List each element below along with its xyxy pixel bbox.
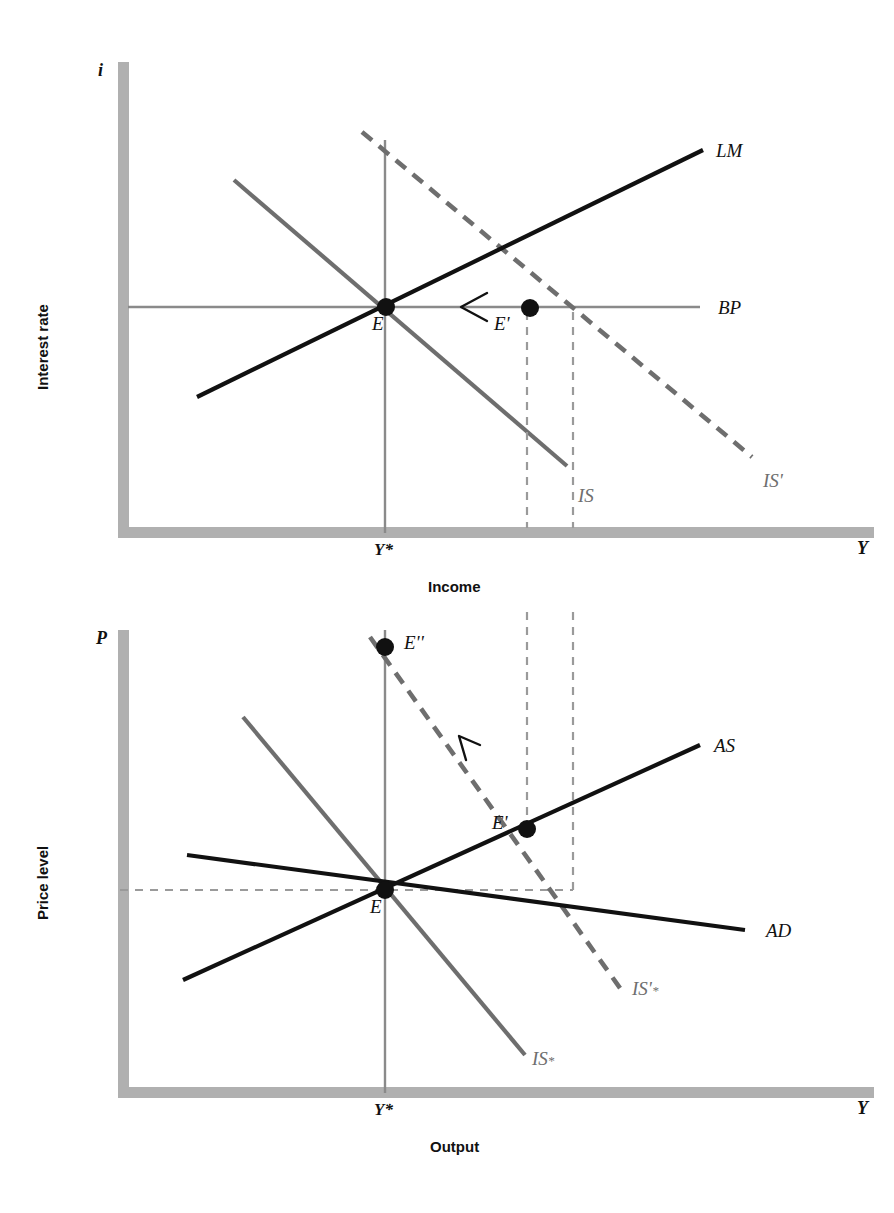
top-point-E-prime: [521, 299, 539, 317]
bottom-panel-group: [118, 612, 874, 1098]
top-point-E-prime-label: E': [494, 313, 510, 335]
top-x-tick-ystar: Y*: [374, 540, 393, 560]
bottom-x-axis-symbol: Y: [857, 1098, 868, 1119]
bottom-x-axis-title: Output: [430, 1138, 479, 1155]
is-curve-label: IS: [578, 485, 594, 507]
bottom-point-E-double-prime-label: E'': [404, 632, 424, 654]
figure-canvas: .axbar{fill:#b0b0b0;} .blk{stroke:#11111…: [0, 0, 894, 1213]
top-x-axis-bar: [118, 527, 874, 538]
top-y-axis-bar: [118, 62, 129, 538]
is-prime-star-curve-label: IS'*: [632, 978, 658, 1000]
as-curve: [183, 745, 700, 980]
is-prime-star-subscript: *: [652, 983, 659, 998]
is-star-curve-label: IS*: [532, 1048, 554, 1070]
ad-curve: [187, 855, 745, 930]
top-point-E-label: E: [372, 313, 384, 335]
lm-curve-label: LM: [716, 140, 742, 162]
bottom-point-E-double-prime: [376, 638, 394, 656]
is-prime-curve-label: IS': [763, 470, 783, 492]
is-curve: [234, 180, 567, 466]
bottom-x-axis-bar: [118, 1087, 874, 1098]
is-star-subscript: *: [548, 1053, 555, 1068]
bottom-point-E-prime-label: E': [492, 812, 508, 834]
economics-diagram-svg: .axbar{fill:#b0b0b0;} .blk{stroke:#11111…: [0, 0, 894, 1213]
is-prime-curve: [362, 132, 752, 457]
bottom-point-E-prime: [518, 820, 536, 838]
top-x-axis-title: Income: [428, 578, 481, 595]
bottom-y-axis-title: Price level: [34, 846, 51, 920]
top-x-axis-symbol: Y: [857, 538, 868, 559]
top-panel-group: [118, 62, 874, 538]
bottom-y-axis-symbol: P: [96, 628, 107, 649]
top-y-axis-symbol: i: [98, 60, 103, 81]
bottom-upleft-arrow-icon: [459, 736, 480, 760]
ad-curve-label: AD: [766, 920, 791, 942]
bottom-point-E-label: E: [370, 896, 382, 918]
bp-curve-label: BP: [718, 297, 741, 319]
as-curve-label: AS: [714, 735, 735, 757]
bottom-x-tick-ystar: Y*: [374, 1100, 393, 1120]
top-y-axis-title: Interest rate: [34, 304, 51, 390]
bottom-y-axis-bar: [118, 630, 129, 1098]
lm-curve: [197, 150, 703, 397]
